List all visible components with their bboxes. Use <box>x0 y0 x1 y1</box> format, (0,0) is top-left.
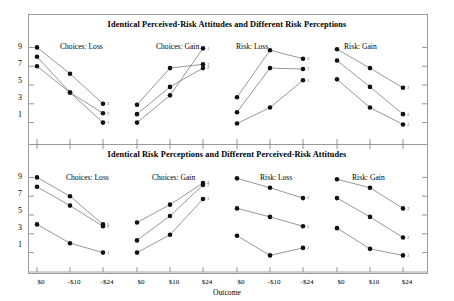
data-point <box>301 246 306 251</box>
series-end-label: 1 <box>107 251 109 255</box>
series-line <box>237 80 303 123</box>
data-point <box>235 95 240 100</box>
data-point <box>335 196 340 201</box>
data-point <box>35 45 40 50</box>
data-point <box>235 176 240 181</box>
series-line <box>237 50 303 97</box>
data-point <box>135 220 140 225</box>
data-point <box>168 66 173 71</box>
data-point <box>368 215 373 220</box>
series-line <box>37 224 103 252</box>
data-point <box>401 122 406 127</box>
series-end-label: 1 <box>107 121 109 125</box>
data-point <box>68 203 73 208</box>
data-point <box>368 66 373 71</box>
data-point <box>135 120 140 125</box>
data-point <box>335 77 340 82</box>
chart-canvas: 321132321321321231321321 <box>0 0 454 301</box>
series-end-label: 3 <box>307 196 309 200</box>
series-end-label: 3 <box>107 102 109 106</box>
data-point <box>301 224 306 229</box>
series-end-label: 2 <box>107 225 109 229</box>
series-end-label: 1 <box>407 123 409 127</box>
data-point <box>268 105 273 110</box>
data-point <box>135 102 140 107</box>
series-end-label: 3 <box>207 183 209 187</box>
data-point <box>201 46 206 51</box>
series-end-label: 3 <box>407 86 409 90</box>
data-point <box>68 241 73 246</box>
data-point <box>401 253 406 258</box>
series-end-label: 1 <box>207 47 209 51</box>
data-point <box>135 250 140 255</box>
series-line <box>137 68 203 114</box>
figure-root: Identical Perceived-Risk Attitudes and D… <box>0 0 454 301</box>
series-end-label: 1 <box>407 254 409 258</box>
series-line <box>237 236 303 256</box>
data-point <box>101 111 106 116</box>
data-point <box>235 233 240 238</box>
data-point <box>68 194 73 199</box>
data-point <box>301 196 306 201</box>
data-point <box>68 90 73 95</box>
data-point <box>401 206 406 211</box>
data-point <box>135 112 140 117</box>
series-line <box>37 177 103 224</box>
data-point <box>35 185 40 190</box>
data-point <box>368 85 373 90</box>
data-point <box>68 71 73 76</box>
data-point <box>168 93 173 98</box>
data-point <box>201 197 206 202</box>
data-point <box>301 56 306 61</box>
data-point <box>235 110 240 115</box>
data-point <box>201 183 206 188</box>
data-point <box>168 232 173 237</box>
data-point <box>268 253 273 258</box>
data-point <box>401 112 406 117</box>
data-point <box>35 55 40 60</box>
series-end-label: 2 <box>407 113 409 117</box>
data-point <box>368 105 373 110</box>
series-end-label: 1 <box>207 197 209 201</box>
data-point <box>268 185 273 190</box>
data-point <box>401 235 406 240</box>
data-point <box>268 215 273 220</box>
series-end-label: 1 <box>307 246 309 250</box>
data-point <box>101 102 106 107</box>
data-point <box>368 247 373 252</box>
data-point <box>268 66 273 71</box>
data-point <box>168 214 173 219</box>
data-point <box>335 177 340 182</box>
series-end-label: 2 <box>207 66 209 70</box>
data-point <box>168 85 173 90</box>
data-point <box>35 64 40 69</box>
data-point <box>335 226 340 231</box>
data-point <box>335 58 340 63</box>
series-end-label: 2 <box>107 112 109 116</box>
data-point <box>35 222 40 227</box>
series-end-label: 1 <box>307 79 309 83</box>
data-point <box>235 121 240 126</box>
series-end-label: 3 <box>307 57 309 61</box>
data-point <box>301 78 306 83</box>
data-point <box>301 67 306 72</box>
series-line <box>37 57 103 113</box>
data-point <box>268 48 273 53</box>
data-point <box>335 47 340 52</box>
data-point <box>135 238 140 243</box>
data-point <box>101 120 106 125</box>
data-point <box>368 185 373 190</box>
data-point <box>101 250 106 255</box>
series-line <box>137 64 203 104</box>
data-point <box>201 66 206 71</box>
series-line <box>337 228 403 255</box>
data-point <box>101 224 106 229</box>
series-line <box>137 185 203 240</box>
data-point <box>168 202 173 207</box>
series-end-label: 2 <box>307 67 309 71</box>
series-end-label: 3 <box>407 207 409 211</box>
data-point <box>401 86 406 91</box>
series-end-label: 2 <box>407 236 409 240</box>
series-end-label: 2 <box>307 225 309 229</box>
series-line <box>137 199 203 253</box>
